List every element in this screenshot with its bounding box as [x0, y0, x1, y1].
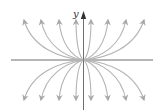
trajectory	[76, 20, 83, 60]
trajectory	[24, 60, 83, 100]
trajectory	[84, 60, 91, 100]
y-axis-arrowhead-icon	[81, 11, 86, 19]
trajectory	[84, 60, 144, 100]
phase-portrait-diagram: y	[0, 0, 160, 112]
y-axis-label: y	[72, 8, 79, 19]
trajectory	[24, 20, 83, 60]
trajectory	[84, 20, 91, 60]
trajectory	[84, 20, 144, 60]
trajectory	[76, 60, 83, 100]
